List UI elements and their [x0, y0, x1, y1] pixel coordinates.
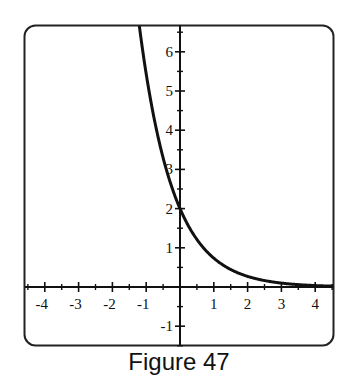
x-tick-label: -4 [36, 296, 49, 312]
x-tick-label: 2 [244, 296, 252, 312]
x-tick-label: -2 [103, 296, 116, 312]
y-tick-label: 6 [166, 44, 174, 60]
x-tick-label: -3 [69, 296, 82, 312]
y-tick-label: -1 [161, 318, 174, 334]
x-tick-label: 3 [278, 296, 286, 312]
x-tick-labels: -4-3-2-11234 [36, 296, 320, 312]
y-tick-label: 1 [166, 240, 174, 256]
x-tick-label: 4 [311, 296, 319, 312]
figure-caption: Figure 47 [0, 349, 352, 375]
x-tick-label: -1 [137, 296, 150, 312]
y-tick-label: 5 [166, 83, 174, 99]
y-tick-label: 2 [166, 201, 174, 217]
x-tick-label: 1 [210, 296, 218, 312]
y-tick-label: 4 [166, 122, 174, 138]
chart-plot: -4-3-2-11234 -1123456 [0, 0, 352, 350]
